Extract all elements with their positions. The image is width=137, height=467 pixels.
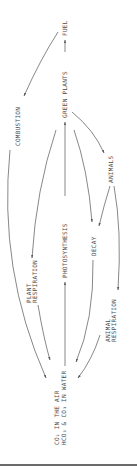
process-plant-respiration-line2: RESPIRATION [31,260,38,303]
arrow-plant-respiration-to-co2 [38,305,50,360]
carbon-cycle-diagram: FUEL GREEN PLANTS COMBUSTION PHOTOSYNTHE… [0,0,137,467]
node-co2-air-line1: CO₂ IN THE AIR [53,390,60,445]
arrow-plants-to-plant-respiration [32,130,56,258]
node-decay: DECAY [90,236,97,256]
arrow-decay-to-co2 [76,260,93,362]
process-photosynthesis: PHOTOSYNTHESIS [61,223,68,278]
node-co2-air-line2: HCO₃ & CO₃ IN WATER [60,371,67,445]
node-animals: ANIMALS [107,156,114,183]
arrow-animal-respiration-to-co2 [78,335,100,378]
arrow-animals-to-animal-respiration [114,186,119,290]
bottom-divider [0,464,137,466]
arrow-fuel-to-combustion [24,32,58,96]
node-fuel: FUEL [61,20,68,36]
arrow-animals-to-decay [99,186,110,226]
process-animal-respiration-line2: RESPIRATION [110,299,117,342]
process-combustion: COMBUSTION [14,107,21,146]
arrow-plants-to-decay [74,130,92,222]
node-green-plants: GREEN PLANTS [61,71,68,118]
arrow-combustion-to-co2 [8,150,46,378]
arrow-plants-to-animals [72,112,104,153]
